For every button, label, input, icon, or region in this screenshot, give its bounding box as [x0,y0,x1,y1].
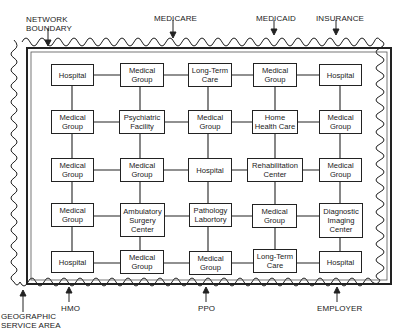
node-hospital: Hospital [188,158,232,182]
node-long-term-care: Long-Term Care [253,249,297,273]
label-network-boundary: NETWORK BOUNDARY [26,15,72,33]
node-hospital: Hospital [319,251,362,273]
node-medical-group: Medical Group [189,251,232,275]
node-medical-group: Medical Group [252,204,297,228]
label-medicare: MEDICARE [154,14,197,23]
node-psychiatric-facility: Psychiatric Facility [119,110,165,134]
node-medical-group: Medical Group [319,158,362,182]
node-medical-group: Medical Group [120,250,164,274]
node-pathology-laboratory: Pathology Labortory [189,203,232,227]
label-hmo: HMO [61,304,80,313]
node-long-term-care: Long-Term Care [188,63,232,87]
node-medical-group: Medical Group [51,158,94,182]
node-medical-group: Medical Group [120,158,164,182]
node-hospital: Hospital [51,64,94,86]
node-medical-group: Medical Group [319,110,362,134]
node-medical-group: Medical Group [253,63,297,87]
node-diagnostic-imaging-center: Diagnostic Imaging Center [319,203,363,238]
label-geographic-service-area: GEOGRAPHIC SERVICE AREA [1,312,61,330]
node-medical-group: Medical Group [51,203,94,227]
label-medicaid: MEDICAID [256,14,296,23]
node-hospital: Hospital [51,251,94,273]
label-insurance: INSURANCE [316,14,364,23]
node-rehabilitation-center: Rehabilitation Center [247,158,303,182]
node-home-health-care: Home Health Care [252,110,298,134]
node-ambulatory-surgery-center: Ambulatory Surgery Center [120,203,165,237]
node-medical-group: Medical Group [188,110,232,134]
label-ppo: PPO [198,304,215,313]
node-hospital: Hospital [319,64,362,86]
node-medical-group: Medical Group [51,110,94,134]
node-medical-group: Medical Group [120,63,164,87]
label-employer: EMPLOYER [317,304,362,313]
